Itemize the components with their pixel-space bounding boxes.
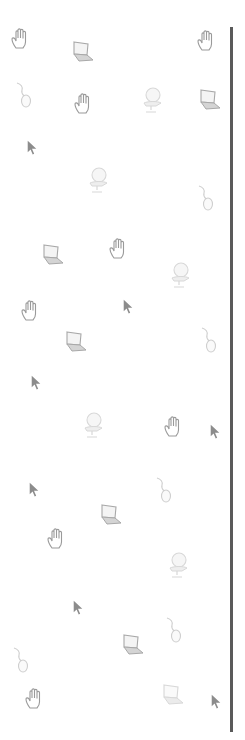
laptop-icon	[96, 501, 124, 529]
chair-icon	[84, 166, 112, 194]
arrow-cursor-icon	[206, 692, 226, 712]
arrow-cursor-icon	[26, 373, 46, 393]
hand-icon	[106, 236, 134, 264]
mouse-icon	[196, 326, 224, 354]
mouse-icon	[193, 184, 221, 212]
mouse-icon	[11, 81, 39, 109]
laptop-icon	[158, 681, 186, 709]
chair-icon	[166, 261, 194, 289]
hand-icon	[22, 686, 50, 714]
arrow-cursor-icon	[118, 297, 138, 317]
wallpaper-pattern	[0, 0, 245, 740]
laptop-icon	[61, 328, 89, 356]
arrow-cursor-icon	[22, 138, 42, 158]
laptop-icon	[118, 631, 146, 659]
laptop-icon	[195, 86, 223, 114]
laptop-icon	[68, 38, 96, 66]
arrow-cursor-icon	[68, 598, 88, 618]
mouse-icon	[161, 616, 189, 644]
hand-icon	[194, 28, 222, 56]
hand-icon	[71, 91, 99, 119]
hand-icon	[8, 26, 36, 54]
arrow-cursor-icon	[205, 422, 225, 442]
chair-icon	[164, 551, 192, 579]
hand-icon	[44, 526, 72, 554]
laptop-icon	[38, 241, 66, 269]
mouse-icon	[151, 476, 179, 504]
hand-icon	[18, 298, 46, 326]
chair-icon	[138, 86, 166, 114]
mouse-icon	[8, 646, 36, 674]
hand-icon	[161, 414, 189, 442]
chair-icon	[79, 411, 107, 439]
arrow-cursor-icon	[24, 480, 44, 500]
vertical-divider	[230, 27, 233, 732]
